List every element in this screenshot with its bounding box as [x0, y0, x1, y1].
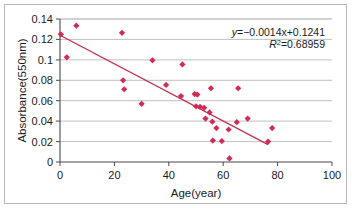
y-tick-labels: 0.14 0.12 0.1 0.08 0.06 0.04 0.02 0	[32, 13, 53, 168]
y-tick-label: 0.14	[32, 13, 53, 25]
x-tick-label: 100	[323, 169, 341, 181]
x-axis-ticks	[60, 162, 332, 166]
x-tick-label: 40	[163, 169, 175, 181]
x-axis-title: Age(year)	[171, 187, 222, 199]
x-tick-label: 60	[217, 169, 229, 181]
equation-body: =−0.0014x+0.1241	[237, 26, 325, 38]
y-tick-label: 0.1	[38, 54, 53, 66]
x-tick-label: 0	[57, 169, 63, 181]
y-tick-label: 0.06	[32, 95, 53, 107]
x-tick-label: 80	[271, 169, 283, 181]
scatter-plot-svg: 0.14 0.12 0.1 0.08 0.06 0.04 0.02 0 0 20…	[0, 0, 352, 209]
equation-label: y=−0.0014x+0.1241	[231, 26, 325, 38]
y-tick-label: 0.04	[32, 115, 53, 127]
y-axis-ticks	[56, 19, 60, 162]
x-tick-labels: 0 20 40 60 80 100	[57, 169, 341, 181]
y-tick-label: 0	[47, 156, 53, 168]
x-tick-label: 20	[108, 169, 120, 181]
y-tick-label: 0.12	[32, 33, 53, 45]
chart-container: 0.14 0.12 0.1 0.08 0.06 0.04 0.02 0 0 20…	[0, 0, 352, 209]
r-value: =0.68959	[281, 38, 325, 50]
y-axis-title: Absorbance(550nm)	[16, 38, 28, 142]
y-tick-label: 0.02	[32, 136, 53, 148]
y-tick-label: 0.08	[32, 74, 53, 86]
